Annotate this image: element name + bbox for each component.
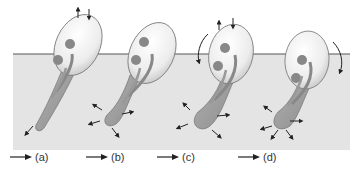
organ [65, 39, 75, 49]
organ [139, 37, 149, 47]
panel-label-d: (d) [238, 151, 276, 163]
panel-label-b: (b) [86, 151, 124, 163]
right-arrow-icon [238, 152, 260, 162]
panel-label-a: (a) [10, 151, 48, 163]
diagram-canvas [0, 0, 357, 173]
organ [53, 55, 63, 65]
panel-label-c: (c) [157, 151, 195, 163]
organ [220, 43, 230, 53]
right-arrow-icon [157, 152, 179, 162]
right-arrow-icon [10, 152, 32, 162]
organ [297, 55, 307, 65]
organ [213, 61, 223, 71]
right-arrow-icon [86, 152, 108, 162]
organ [131, 55, 141, 65]
